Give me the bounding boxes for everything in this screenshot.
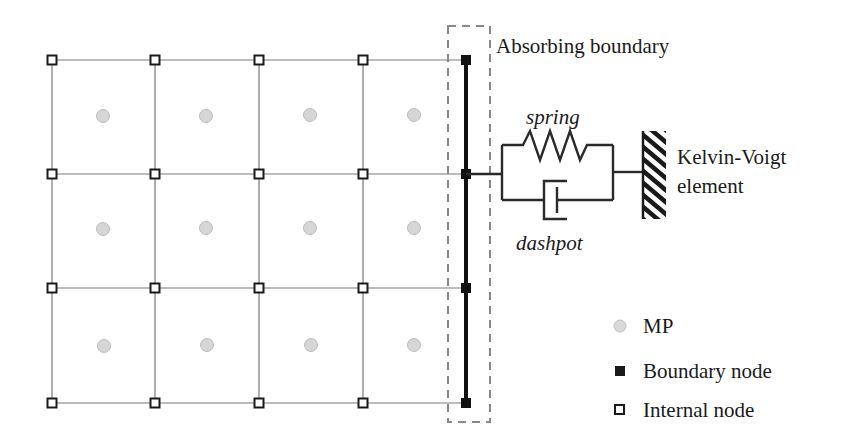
internal-node-icon xyxy=(255,170,264,179)
kelvin-voigt-element xyxy=(466,131,642,219)
internal-node-icon xyxy=(255,56,264,65)
hatch-stroke xyxy=(642,134,668,156)
internal-node-icon xyxy=(48,284,57,293)
internal-node-icon xyxy=(48,399,57,408)
material-point-icon xyxy=(408,109,421,122)
material-point-icon xyxy=(408,222,421,235)
boundary-node-icon xyxy=(461,283,471,293)
internal-node-icon xyxy=(48,170,57,179)
hatch-stroke xyxy=(642,170,668,192)
internal-node-icon xyxy=(359,56,368,65)
internal-node-icon xyxy=(151,56,160,65)
internal-node-icon xyxy=(255,284,264,293)
material-point-icon xyxy=(304,109,317,122)
legend-mp-icon xyxy=(614,320,626,332)
absorbing-boundary-box xyxy=(448,26,490,422)
kelvin-voigt-label-line1: Kelvin-Voigt xyxy=(677,145,786,169)
hatch-stroke xyxy=(642,158,668,180)
internal-node-icon xyxy=(48,56,57,65)
internal-node-icon xyxy=(359,170,368,179)
material-point-icon xyxy=(98,340,111,353)
spring-label: spring xyxy=(526,105,580,129)
hatch-stroke xyxy=(642,182,668,204)
material-point-icon xyxy=(304,222,317,235)
boundary-node-icon xyxy=(461,398,471,408)
material-point-icon xyxy=(200,222,213,235)
hatch-stroke xyxy=(642,230,668,252)
material-point-icon xyxy=(200,110,213,123)
absorbing-boundary-label: Absorbing boundary xyxy=(496,34,670,58)
legend-boundary-node-label: Boundary node xyxy=(643,359,772,383)
material-point-icon xyxy=(97,223,110,236)
internal-node-icon xyxy=(151,399,160,408)
internal-node-icon xyxy=(359,399,368,408)
kelvin-voigt-label-line2: element xyxy=(677,174,744,198)
boundary-line xyxy=(461,55,471,408)
legend-internal-node-label: Internal node xyxy=(643,398,754,422)
material-point-icon xyxy=(201,339,214,352)
hatch-stroke xyxy=(642,194,668,216)
legend-internal-node-icon xyxy=(615,405,624,414)
fixed-wall-icon xyxy=(642,110,668,252)
hatch-stroke xyxy=(642,122,668,144)
hatch-stroke xyxy=(642,218,668,240)
dashpot-label: dashpot xyxy=(516,231,584,255)
spring-icon xyxy=(502,131,613,160)
legend-mp-label: MP xyxy=(643,314,673,338)
boundary-node-icon xyxy=(461,55,471,65)
hatch-stroke xyxy=(642,206,668,228)
mpm-boundary-diagram: Absorbing boundary spring dashpot Kelvin… xyxy=(0,0,849,447)
material-point-icon xyxy=(97,110,110,123)
hatch-stroke xyxy=(642,146,668,168)
material-point-icon xyxy=(305,339,318,352)
legend-boundary-node-icon xyxy=(615,366,625,376)
internal-node-icon xyxy=(359,284,368,293)
material-point-icon xyxy=(408,339,421,352)
mesh-grid-lines xyxy=(52,60,466,403)
internal-node-icon xyxy=(151,284,160,293)
internal-node-icon xyxy=(255,399,264,408)
internal-node-icon xyxy=(151,170,160,179)
hatch-stroke xyxy=(642,110,668,132)
legend: MP Boundary node Internal node xyxy=(614,314,772,422)
